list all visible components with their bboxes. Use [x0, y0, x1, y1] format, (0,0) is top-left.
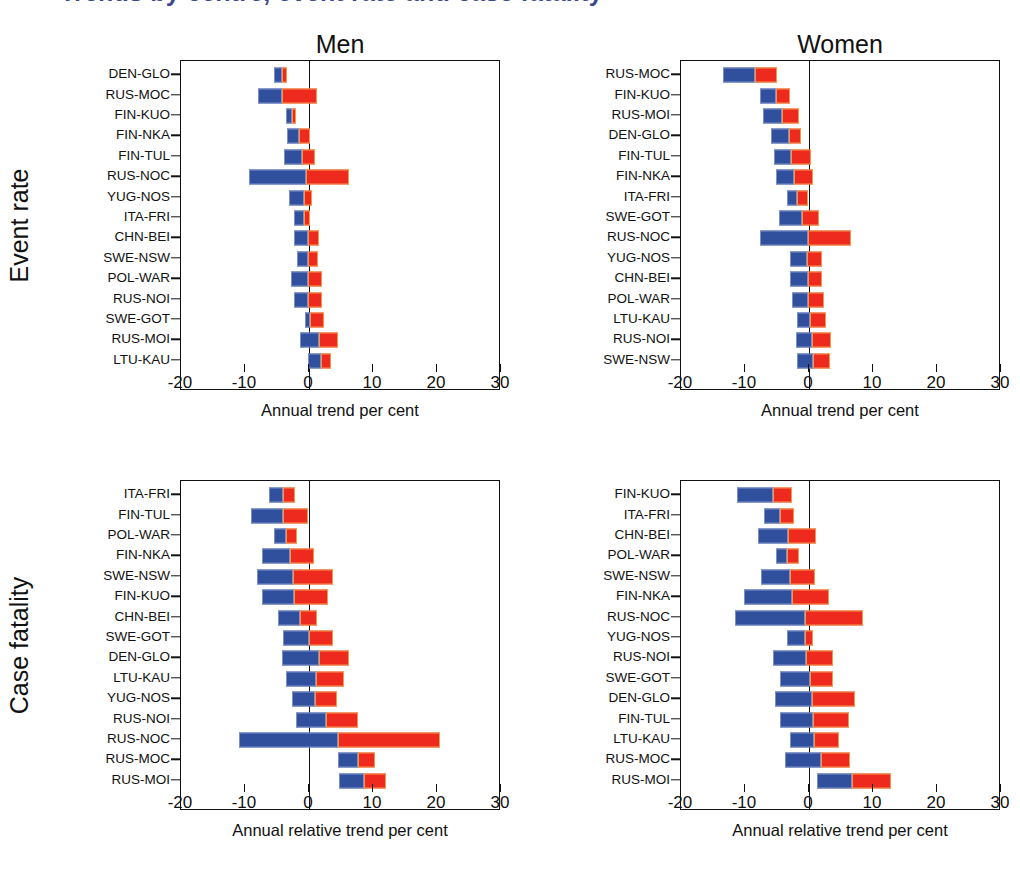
- y-axis-category-label: DEN-GLO: [608, 691, 670, 705]
- panel-women-event-rate: RUS-MOCFIN-KUORUS-MOIDEN-GLOFIN-TULFIN-N…: [560, 60, 1000, 416]
- y-axis-category-label: RUS-NOC: [107, 169, 170, 183]
- bar-row: [181, 610, 499, 625]
- y-axis-category-label: LTU-KAU: [113, 353, 170, 367]
- x-axis-tick: [1000, 364, 1001, 372]
- plot-area: [180, 60, 500, 390]
- x-axis-tick-label: -10: [732, 793, 757, 813]
- y-axis-category-label: RUS-NOC: [607, 610, 670, 624]
- y-axis-tick: [671, 155, 680, 156]
- x-axis-tick-label: 20: [927, 373, 946, 393]
- bar-segment-red: [299, 129, 310, 144]
- bar-row: [681, 753, 999, 768]
- bar-row: [181, 508, 499, 523]
- bar-segment-blue: [780, 712, 813, 727]
- x-axis-tick: [808, 364, 809, 372]
- bar-segment-red: [810, 313, 826, 328]
- x-axis-tick: [872, 364, 873, 372]
- y-axis-tick: [671, 196, 680, 197]
- x-axis-tick: [308, 784, 309, 792]
- x-axis-tick-label: 20: [427, 373, 446, 393]
- bar-row: [181, 272, 499, 287]
- bar-segment-red: [290, 549, 314, 564]
- bar-segment-red: [802, 211, 819, 226]
- x-axis-tick: [244, 784, 245, 792]
- bar-row: [181, 488, 499, 503]
- y-axis-category-label: POL-WAR: [607, 292, 670, 306]
- bar-segment-blue: [294, 292, 308, 307]
- x-axis-title: Annual relative trend per cent: [680, 821, 1000, 840]
- bar-segment-blue: [287, 129, 299, 144]
- y-axis-category-label: SWE-NSW: [603, 353, 670, 367]
- bar-row: [681, 651, 999, 666]
- bar-segment-red: [806, 651, 833, 666]
- y-axis-category-label: FIN-KUO: [615, 487, 671, 501]
- x-axis-tick: [372, 364, 373, 372]
- row-caption-event-rate-label: Event rate: [6, 168, 35, 282]
- y-axis-tick: [171, 73, 180, 74]
- y-axis-tick: [671, 237, 680, 238]
- bar-segment-blue: [776, 170, 793, 185]
- y-axis-category-label: ITA-FRI: [624, 508, 670, 522]
- bar-segment-red: [805, 631, 813, 646]
- bar-segment-blue: [773, 651, 806, 666]
- bar-segment-blue: [787, 190, 797, 205]
- bar-segment-blue: [774, 149, 791, 164]
- bar-row: [181, 109, 499, 124]
- bar-row: [681, 549, 999, 564]
- bar-segment-blue: [257, 569, 293, 584]
- y-axis-tick: [671, 277, 680, 278]
- y-axis-tick: [171, 318, 180, 319]
- y-axis-category-label: SWE-NSW: [603, 569, 670, 583]
- x-axis-tick-label: -20: [168, 373, 193, 393]
- x-axis-tick-label: 0: [303, 793, 312, 813]
- bar-row: [681, 671, 999, 686]
- bar-segment-red: [308, 231, 319, 246]
- bar-segment-blue: [239, 733, 338, 748]
- x-axis-tick-label: 10: [863, 793, 882, 813]
- bar-segment-red: [788, 529, 816, 544]
- bar-segment-red: [286, 529, 298, 544]
- bar-row: [181, 569, 499, 584]
- bar-row: [181, 712, 499, 727]
- y-axis-tick: [671, 339, 680, 340]
- bar-row: [681, 149, 999, 164]
- bar-segment-blue: [760, 88, 775, 103]
- bar-segment-blue: [297, 251, 308, 266]
- bar-segment-red: [282, 68, 286, 83]
- y-axis-labels: RUS-MOCFIN-KUORUS-MOIDEN-GLOFIN-TULFIN-N…: [560, 60, 680, 390]
- x-axis-tick: [872, 784, 873, 792]
- y-axis-tick: [671, 135, 680, 136]
- bar-row: [181, 129, 499, 144]
- bar-row: [681, 712, 999, 727]
- bar-row: [181, 292, 499, 307]
- bar-segment-red: [315, 692, 337, 707]
- y-axis-tick: [171, 94, 180, 95]
- x-axis-tick: [500, 364, 501, 372]
- y-axis-tick: [671, 114, 680, 115]
- x-axis-tick-label: 20: [927, 793, 946, 813]
- y-axis-tick: [171, 697, 180, 698]
- row-caption-case-fatality: Case fatality: [0, 480, 40, 810]
- x-axis-tick-label: 10: [863, 373, 882, 393]
- y-axis-category-label: DEN-GLO: [108, 651, 170, 665]
- y-axis-tick: [671, 657, 680, 658]
- x-axis-title: Annual trend per cent: [680, 401, 1000, 420]
- y-axis-tick: [171, 359, 180, 360]
- bar-row: [181, 190, 499, 205]
- bar-segment-blue: [282, 651, 318, 666]
- y-axis-category-label: RUS-MOC: [106, 753, 171, 767]
- x-axis-title: Annual trend per cent: [180, 401, 500, 420]
- bar-row: [181, 590, 499, 605]
- bar-segment-blue: [797, 313, 810, 328]
- bar-row: [181, 753, 499, 768]
- bar-segment-red: [808, 272, 823, 287]
- bar-segment-red: [792, 590, 829, 605]
- bar-row: [181, 68, 499, 83]
- y-axis-tick: [171, 534, 180, 535]
- y-axis-tick: [171, 575, 180, 576]
- bar-row: [681, 610, 999, 625]
- x-axis-tick: [744, 784, 745, 792]
- y-axis-tick: [671, 73, 680, 74]
- y-axis-category-label: CHN-BEI: [614, 528, 670, 542]
- y-axis-tick: [171, 493, 180, 494]
